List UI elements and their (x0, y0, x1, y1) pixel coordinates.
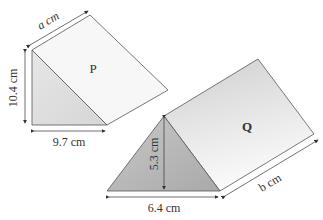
label-q-base: 6.4 cm (148, 201, 181, 215)
label-q-height: 5.3 cm (147, 137, 161, 170)
label-q: Q (242, 119, 252, 134)
prism-diagram: P a cm 10.4 cm 9.7 cm Q 5.3 cm 6.4 cm b … (0, 0, 323, 220)
label-p-base: 9.7 cm (53, 135, 86, 149)
label-p-height: 10.4 cm (6, 68, 20, 107)
label-b-cm: b cm (256, 170, 284, 195)
label-p: P (89, 61, 96, 76)
